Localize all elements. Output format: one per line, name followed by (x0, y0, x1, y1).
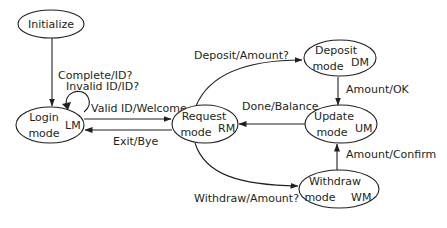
state-initialize: Initialize (18, 10, 84, 38)
label-amount-confirm: Amount/Confirm (346, 148, 436, 161)
state-request-line2: mode (180, 126, 211, 139)
label-valid-id-welcome: Valid ID/Welcome (91, 102, 187, 115)
label-exit-bye: Exit/Bye (113, 135, 159, 148)
state-withdraw-line1: Withdraw (309, 175, 361, 188)
edge-init-to-login: Complete/ID? (52, 38, 132, 106)
edge-request-to-login: Exit/Bye (85, 130, 172, 148)
state-withdraw-line2: mode (304, 191, 335, 204)
label-deposit-amount: Deposit/Amount? (194, 49, 289, 62)
edge-withdraw-to-update: Amount/Confirm (337, 144, 436, 170)
state-deposit-abbr: DM (351, 56, 369, 69)
label-withdraw-amount: Withdraw/Amount? (194, 192, 299, 205)
state-deposit: Deposit mode DM (304, 40, 376, 76)
arrow-login-self-loop (66, 91, 89, 112)
label-amount-ok: Amount/OK (346, 83, 410, 96)
state-deposit-line2: mode (312, 60, 343, 73)
label-done-balance: Done/Balance (242, 100, 319, 113)
state-login-line2: mode (28, 127, 59, 140)
arrow-request-to-withdraw (195, 143, 298, 186)
edge-request-to-withdraw: Withdraw/Amount? (194, 143, 299, 205)
state-request: Request mode RM (172, 105, 238, 143)
state-login-abbr: LM (65, 119, 81, 132)
state-update-line1: Update (314, 110, 354, 123)
state-request-abbr: RM (218, 122, 235, 135)
edge-request-to-deposit: Deposit/Amount? (194, 49, 302, 106)
state-login: Login mode LM (16, 107, 84, 143)
state-login-line1: Login (29, 111, 59, 124)
state-update-abbr: UM (355, 122, 373, 135)
label-invalid-id: Invalid ID/ID? (66, 80, 139, 93)
state-initialize-label: Initialize (28, 18, 74, 31)
edge-login-to-request: Valid ID/Welcome (84, 102, 187, 119)
state-update: Update mode UM (305, 105, 377, 143)
state-withdraw-abbr: WM (351, 191, 371, 204)
state-machine-diagram: Complete/ID? Invalid ID/ID? Valid ID/Wel… (0, 0, 447, 228)
state-update-line2: mode (316, 126, 347, 139)
state-withdraw: Withdraw mode WM (299, 170, 379, 208)
edge-deposit-to-update: Amount/OK (338, 77, 410, 105)
